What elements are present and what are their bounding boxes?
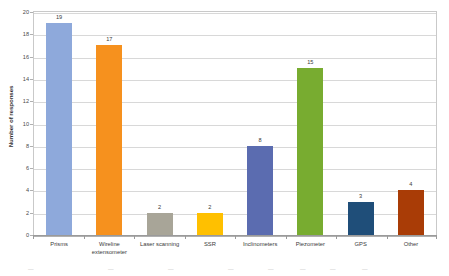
y-tick-mark: [30, 168, 33, 169]
bar-slot: 15: [285, 12, 335, 235]
x-tick-label: Piezometer: [285, 241, 335, 256]
x-tick-label: Wirelineextensometer: [84, 241, 134, 256]
caption-remnant: —: [108, 268, 114, 272]
x-tick-mark: [336, 236, 387, 239]
x-tick-mark: [387, 236, 438, 239]
x-tick-mark: [84, 236, 135, 239]
bar-value-label: 2: [158, 204, 161, 210]
bar-slot: 2: [135, 12, 185, 235]
x-tick-mark: [33, 236, 84, 239]
y-tick-mark: [30, 146, 33, 147]
caption-remnant: —: [228, 268, 234, 272]
bar[interactable]: 2: [147, 213, 173, 235]
caption-remnant: —: [168, 268, 174, 272]
x-tick-mark: [286, 236, 337, 239]
y-tick-label: 6: [26, 165, 29, 171]
bar-slot: 19: [34, 12, 84, 235]
x-tick-label-line: extensometer: [85, 249, 133, 257]
bar-value-label: 3: [359, 193, 362, 199]
x-tick-label-line: SSR: [204, 241, 216, 247]
y-tick-mark: [30, 190, 33, 191]
x-tick-label: Laser scanning: [135, 241, 185, 256]
x-axis-tick-labels: PrismsWirelineextensometerLaser scanning…: [34, 241, 436, 256]
bar-slot: 17: [84, 12, 134, 235]
x-tick-label-line: Laser scanning: [140, 241, 179, 247]
y-tick-label: 20: [23, 9, 29, 15]
x-tick-label: Inclinometers: [235, 241, 285, 256]
y-tick-mark: [30, 79, 33, 80]
y-tick-label: 10: [23, 121, 29, 127]
bar[interactable]: 15: [297, 68, 323, 235]
x-tick-mark: [134, 236, 185, 239]
bar-value-label: 17: [106, 36, 112, 42]
y-tick-mark: [30, 12, 33, 13]
y-tick-label: 12: [23, 98, 29, 104]
bar-value-label: 4: [409, 181, 412, 187]
y-tick-label: 8: [26, 143, 29, 149]
x-tick-label: Prisms: [34, 241, 84, 256]
bar-slot: 4: [386, 12, 436, 235]
y-tick-mark: [30, 124, 33, 125]
x-tick-mark: [185, 236, 236, 239]
y-tick-mark: [30, 101, 33, 102]
x-axis-tick-marks: [33, 236, 437, 239]
bar-slot: 3: [336, 12, 386, 235]
bar-value-label: 19: [56, 14, 62, 20]
x-tick-label-line: GPS: [355, 241, 367, 247]
y-tick-label: 14: [23, 76, 29, 82]
bar-chart-figure: Number of responses 02468101214161820 19…: [0, 0, 449, 276]
y-tick-label: 0: [26, 232, 29, 238]
x-tick-label-line: Other: [404, 241, 419, 247]
x-tick-label-line: Prisms: [50, 241, 68, 247]
x-tick-label-line: Wireline: [99, 241, 120, 247]
caption-remnant: —: [330, 268, 336, 272]
y-tick-label: 2: [26, 210, 29, 216]
y-tick-label: 18: [23, 31, 29, 37]
bar[interactable]: 4: [398, 190, 424, 235]
bar[interactable]: 3: [348, 202, 374, 235]
bar[interactable]: 19: [46, 23, 72, 235]
y-tick-mark: [30, 34, 33, 35]
bar-slot: 8: [235, 12, 285, 235]
bar-slot: 2: [185, 12, 235, 235]
y-tick-label: 16: [23, 54, 29, 60]
x-tick-label: Other: [386, 241, 436, 256]
bar-value-label: 8: [259, 137, 262, 143]
x-tick-mark: [235, 236, 286, 239]
caption-remnant: —: [300, 268, 306, 272]
x-tick-label: GPS: [336, 241, 386, 256]
caption-remnant: —: [28, 268, 34, 272]
y-tick-label: 4: [26, 187, 29, 193]
bar-value-label: 2: [208, 204, 211, 210]
x-tick-label: SSR: [185, 241, 235, 256]
x-tick-label-line: Inclinometers: [243, 241, 277, 247]
y-tick-mark: [30, 213, 33, 214]
bar[interactable]: 2: [197, 213, 223, 235]
y-axis-title: Number of responses: [4, 0, 18, 232]
caption-remnant: —: [268, 268, 274, 272]
x-tick-label-line: Piezometer: [296, 241, 325, 247]
cropped-caption-strip: ————————: [0, 268, 449, 276]
caption-remnant: —: [362, 268, 368, 272]
bar-value-label: 15: [307, 59, 313, 65]
bars-container: 19172281534: [34, 12, 436, 235]
bar[interactable]: 8: [247, 146, 273, 235]
bar[interactable]: 17: [96, 45, 122, 235]
y-axis-title-text: Number of responses: [8, 85, 15, 147]
y-tick-mark: [30, 57, 33, 58]
